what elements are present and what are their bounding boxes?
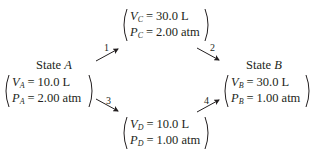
state-a-title: State A	[36, 58, 72, 73]
state-d-values: VD=10.0 L PD=1.00 atm	[120, 116, 212, 150]
right-paren	[204, 8, 212, 42]
left-paren	[120, 8, 128, 42]
left-paren	[221, 74, 229, 108]
state-a-volume: VA=10.0 L	[12, 74, 81, 90]
state-b-title: State B	[246, 58, 282, 73]
state-c-volume: VC=30.0 L	[130, 8, 200, 24]
state-d-pressure: PD=1.00 atm	[130, 132, 200, 148]
right-paren	[204, 116, 212, 150]
left-paren	[120, 116, 128, 150]
state-a-pressure: PA=2.00 atm	[12, 90, 81, 106]
right-paren	[88, 74, 96, 108]
state-a-values: VA=10.0 L PA=2.00 atm	[2, 74, 96, 108]
step-label-1: 1	[104, 42, 109, 53]
step-label-2: 2	[210, 42, 215, 53]
state-b-values: VB=30.0 L PB=1.00 atm	[221, 74, 313, 108]
left-paren	[2, 74, 10, 108]
state-d-volume: VD=10.0 L	[130, 116, 200, 132]
state-b-pressure: PB=1.00 atm	[231, 90, 300, 106]
step-label-3: 3	[106, 95, 111, 106]
arrow-step-2	[197, 48, 219, 60]
state-c-values: VC=30.0 L PC=2.00 atm	[120, 8, 212, 42]
right-paren	[305, 74, 313, 108]
state-b-volume: VB=30.0 L	[231, 74, 300, 90]
step-label-4: 4	[204, 95, 209, 106]
state-c-pressure: PC=2.00 atm	[130, 24, 200, 40]
